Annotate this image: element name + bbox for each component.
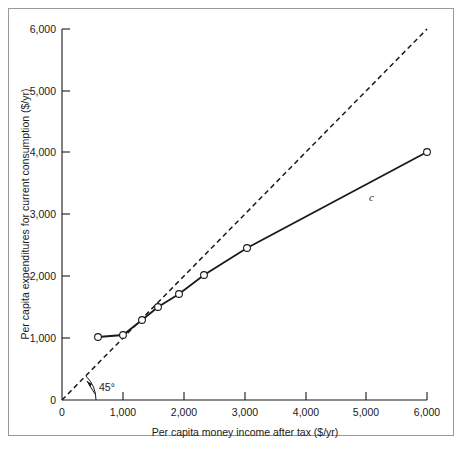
y-tick-label-1000: 1,000: [30, 332, 56, 344]
data-point-marker: [139, 317, 146, 324]
x-tick-label-1000: 1,000: [110, 406, 136, 418]
x-tick-label-4000: 4,000: [293, 406, 319, 418]
data-point-marker: [176, 291, 183, 298]
forty-five-degree-line: [62, 29, 427, 400]
data-point-marker: [95, 334, 102, 341]
x-tick-label-0: 0: [59, 406, 65, 418]
data-point-marker: [201, 272, 208, 279]
x-axis-ticks: [123, 392, 427, 400]
y-tick-label-5000: 5,000: [30, 85, 56, 97]
data-point-marker: [155, 304, 162, 311]
x-tick-label-6000: 6,000: [414, 406, 440, 418]
y-tick-label-3000: 3,000: [30, 208, 56, 220]
y-axis-title: Per capita expenditures for current cons…: [19, 89, 31, 340]
angle-indicator: [86, 376, 96, 400]
data-point-marker: [244, 245, 251, 252]
data-point-marker: [120, 332, 127, 339]
y-axis-tick-labels: 6,000 5,000 4,000 3,000 2,000 1,000 0: [30, 23, 56, 406]
angle-label: 45°: [99, 381, 115, 393]
y-axis-ticks: [62, 29, 70, 338]
chart-plot: 6,000 5,000 4,000 3,000 2,000 1,000 0 0 …: [0, 0, 464, 452]
y-tick-label-2000: 2,000: [30, 270, 56, 282]
figure-container: 6,000 5,000 4,000 3,000 2,000 1,000 0 0 …: [0, 0, 464, 452]
consumption-function-curve: [98, 152, 427, 337]
y-tick-label-4000: 4,000: [30, 146, 56, 158]
data-point-marker: [424, 149, 431, 156]
x-tick-label-5000: 5,000: [353, 406, 379, 418]
y-tick-label-6000: 6,000: [30, 23, 56, 35]
curve-label-c: c: [369, 191, 374, 203]
x-tick-label-2000: 2,000: [171, 406, 197, 418]
y-tick-label-0: 0: [50, 394, 56, 406]
x-axis-tick-labels: 0 1,000 2,000 3,000 4,000 5,000 6,000: [59, 406, 440, 418]
x-axis-title: Per capita money income after tax ($/yr): [152, 426, 339, 438]
x-tick-label-3000: 3,000: [232, 406, 258, 418]
